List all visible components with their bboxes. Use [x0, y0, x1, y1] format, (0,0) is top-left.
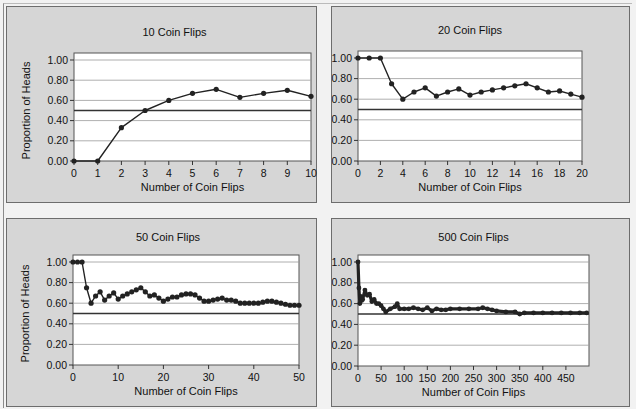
data-point [220, 295, 225, 300]
data-point [147, 293, 152, 298]
data-point [568, 91, 573, 96]
y-tick-label: 0.00 [332, 155, 352, 167]
data-point [517, 312, 522, 317]
x-tick-label: 50 [293, 371, 305, 383]
chart-50-flips: 50 Coin Flips0.000.200.400.600.801.00010… [6, 218, 317, 407]
x-axis-label: Number of Coin Flips [134, 385, 238, 397]
data-point [261, 91, 266, 96]
data-point [360, 297, 365, 302]
data-point [494, 308, 499, 313]
data-point [296, 303, 301, 308]
x-tick-label: 10 [464, 167, 476, 179]
data-point [111, 290, 116, 295]
data-point [308, 94, 313, 99]
x-tick-label: 4 [400, 167, 406, 179]
x-tick-label: 6 [422, 167, 428, 179]
x-tick-label: 20 [576, 167, 588, 179]
data-point [400, 97, 405, 102]
data-point [397, 306, 402, 311]
x-tick-label: 9 [284, 167, 290, 179]
data-point [577, 311, 582, 316]
x-tick-label: 0 [355, 167, 361, 179]
data-point [531, 311, 536, 316]
data-point [98, 289, 103, 294]
chart-svg: 500 Coin Flips0.000.200.400.600.801.0005… [332, 219, 632, 409]
data-point [170, 294, 175, 299]
data-point [256, 301, 261, 306]
data-point [211, 298, 216, 303]
x-tick-label: 5 [190, 167, 196, 179]
data-point [411, 89, 416, 94]
x-tick-label: 12 [487, 167, 499, 179]
data-point [445, 89, 450, 94]
data-point [71, 158, 76, 163]
data-point [75, 259, 80, 264]
x-tick-label: 0 [70, 371, 76, 383]
data-point [423, 85, 428, 90]
chart-10-flips: 10 Coin Flips0.000.200.400.600.801.00012… [6, 6, 317, 203]
data-point [201, 299, 206, 304]
x-tick-label: 18 [554, 167, 566, 179]
data-point [161, 299, 166, 304]
data-point [107, 293, 112, 298]
data-point [197, 295, 202, 300]
data-point [166, 98, 171, 103]
data-point [278, 301, 283, 306]
data-point [490, 307, 495, 312]
data-point [79, 259, 84, 264]
data-point [190, 91, 195, 96]
x-tick-label: 4 [166, 167, 172, 179]
data-point [434, 94, 439, 99]
y-tick-label: 0.80 [332, 72, 352, 84]
data-point [490, 87, 495, 92]
data-point [434, 306, 439, 311]
x-tick-label: 10 [112, 371, 124, 383]
data-point [420, 307, 425, 312]
y-tick-label: 0.00 [332, 360, 352, 372]
x-tick-label: 8 [261, 167, 267, 179]
data-point [95, 158, 100, 163]
y-tick-label: 0.40 [332, 113, 352, 125]
x-tick-label: 2 [118, 167, 124, 179]
chart-20-flips: 20 Coin Flips0.000.200.400.600.801.00024… [331, 6, 630, 203]
data-point [559, 311, 564, 316]
data-point [523, 81, 528, 86]
data-point [513, 310, 518, 315]
x-tick-label: 1 [95, 167, 101, 179]
y-tick-label: 0.40 [48, 114, 69, 126]
data-point [93, 293, 98, 298]
y-tick-label: 0.60 [332, 297, 352, 309]
chart-title: 20 Coin Flips [438, 24, 503, 36]
data-point [251, 301, 256, 306]
data-point [70, 259, 75, 264]
y-tick-label: 0.80 [332, 276, 352, 288]
data-point [557, 88, 562, 93]
data-point [443, 307, 448, 312]
x-tick-label: 50 [375, 372, 387, 384]
data-point [512, 83, 517, 88]
y-tick-label: 0.40 [47, 317, 68, 329]
data-point [479, 89, 484, 94]
chart-title: 500 Coin Flips [438, 231, 509, 243]
x-tick-label: 6 [213, 167, 219, 179]
data-point [389, 81, 394, 86]
data-point [138, 285, 143, 290]
y-tick-label: 1.00 [47, 256, 68, 268]
y-tick-label: 0.80 [47, 276, 68, 288]
data-point [395, 301, 400, 306]
x-tick-label: 7 [237, 167, 243, 179]
x-tick-label: 10 [305, 167, 317, 179]
data-point [265, 299, 270, 304]
y-tick-label: 0.60 [332, 93, 352, 105]
y-tick-label: 0.00 [48, 155, 69, 167]
y-tick-label: 1.00 [332, 52, 352, 64]
data-point [206, 299, 211, 304]
data-point [372, 297, 377, 302]
data-point [430, 308, 435, 313]
x-tick-label: 200 [442, 372, 460, 384]
data-point [457, 306, 462, 311]
x-tick-label: 350 [511, 372, 529, 384]
data-point [522, 311, 527, 316]
x-tick-label: 8 [445, 167, 451, 179]
data-point [102, 298, 107, 303]
